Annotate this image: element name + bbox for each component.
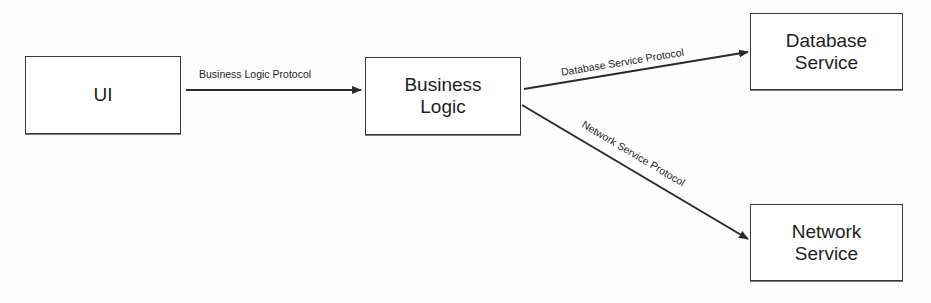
business-logic-node-label: Business Logic [404, 74, 481, 118]
business-logic-node: Business Logic [365, 57, 521, 135]
ui-node: UI [25, 56, 181, 134]
business-logic-protocol-label: Business Logic Protocol [199, 68, 311, 80]
network-service-node-label: Network Service [792, 221, 862, 265]
arrow-business-logic-to-network [522, 105, 748, 239]
database-service-node: Database Service [750, 13, 903, 90]
database-service-node-label: Database Service [786, 30, 867, 74]
ui-node-label: UI [94, 84, 113, 106]
network-service-node: Network Service [750, 204, 903, 281]
